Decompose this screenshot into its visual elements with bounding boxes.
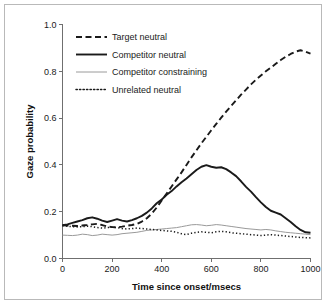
legend-item: Competitor constraining [76,67,207,77]
series-lines-group [63,50,311,238]
chart-legend: Target neutralCompetitor neutralCompetit… [76,32,207,95]
legend-item: Target neutral [76,32,167,42]
legend-item: Unrelated neutral [76,85,181,95]
x-tick-label: 0 [60,264,65,274]
gaze-probability-line-chart: 0.00.20.40.60.81.0 02004006008001000 Tar… [0,0,329,307]
legend-label: Target neutral [112,32,167,42]
series-line-competitor-neutral [63,165,311,233]
x-axis-tick-labels: 02004006008001000 [60,264,321,274]
x-tick-label: 400 [154,264,169,274]
series-line-competitor-constraining [63,225,311,236]
legend-label: Unrelated neutral [112,85,181,95]
y-tick-label: 0.2 [44,207,57,217]
series-line-unrelated-neutral [63,226,311,238]
y-tick-label: 0.8 [44,67,57,77]
x-tick-label: 1000 [300,264,320,274]
x-tick-label: 800 [253,264,268,274]
y-axis-tick-labels: 0.00.20.40.60.81.0 [44,20,57,264]
figure-container: 0.00.20.40.60.81.0 02004006008001000 Tar… [0,0,329,307]
x-tick-label: 600 [204,264,219,274]
y-axis-tick-marks [59,25,63,259]
y-tick-label: 0.4 [44,160,57,170]
x-axis-title: Time since onset/msecs [132,281,241,292]
y-tick-label: 1.0 [44,20,57,30]
legend-label: Competitor constraining [112,67,207,77]
x-tick-label: 200 [105,264,120,274]
y-tick-label: 0.0 [44,254,57,264]
legend-item: Competitor neutral [76,50,186,60]
legend-label: Competitor neutral [112,50,186,60]
y-tick-label: 0.6 [44,113,57,123]
y-axis-title: Gaze probability [24,104,35,179]
x-axis-tick-marks [63,259,311,263]
